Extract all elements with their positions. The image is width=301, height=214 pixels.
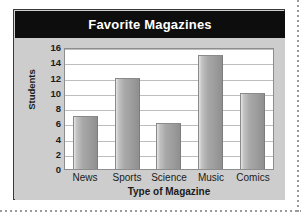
y-axis-title: Students (26, 60, 37, 120)
x-axis-tick-labels: NewsSportsScienceMusicComics (64, 172, 274, 183)
bar-slot (190, 49, 232, 169)
chart-title-banner: Favorite Magazines (15, 11, 285, 38)
bar-music (198, 55, 223, 169)
bar-sports (115, 78, 140, 170)
x-axis-tick-label: Music (190, 172, 232, 183)
y-axis-tick-label: 8 (39, 104, 61, 114)
bar-slot (231, 49, 273, 169)
plot-area (64, 48, 274, 170)
y-axis-tick-label: 0 (39, 165, 61, 175)
y-axis-tick-label: 14 (39, 59, 61, 69)
bars-container (65, 49, 273, 169)
x-axis-tick-label: News (64, 172, 106, 183)
chart-page: Favorite Magazines Students 161412108642… (0, 0, 301, 214)
y-axis-tick-label: 10 (39, 89, 61, 99)
bar-news (73, 116, 98, 169)
chart-card: Favorite Magazines Students 161412108642… (13, 9, 285, 200)
chart-body: Students 1614121086420 NewsSportsScience… (15, 38, 285, 200)
bar-science (156, 123, 181, 169)
x-axis-tick-label: Science (148, 172, 190, 183)
y-axis-tick-label: 6 (39, 120, 61, 130)
y-axis-tick-label: 16 (39, 43, 61, 53)
dotted-edge-bottom-decoration (0, 210, 301, 212)
x-axis-tick-label: Sports (106, 172, 148, 183)
y-axis-tick-labels: 1614121086420 (39, 48, 61, 170)
bar-slot (148, 49, 190, 169)
y-axis-tick-label: 4 (39, 135, 61, 145)
bar-slot (65, 49, 107, 169)
bar-comics (240, 93, 265, 169)
y-axis-tick-label: 12 (39, 74, 61, 84)
bar-slot (107, 49, 149, 169)
x-axis-tick-label: Comics (232, 172, 274, 183)
y-axis-tick-label: 2 (39, 150, 61, 160)
dotted-edge-right-decoration (297, 0, 299, 214)
x-axis-title: Type of Magazine (64, 186, 274, 197)
chart-title: Favorite Magazines (88, 17, 212, 32)
